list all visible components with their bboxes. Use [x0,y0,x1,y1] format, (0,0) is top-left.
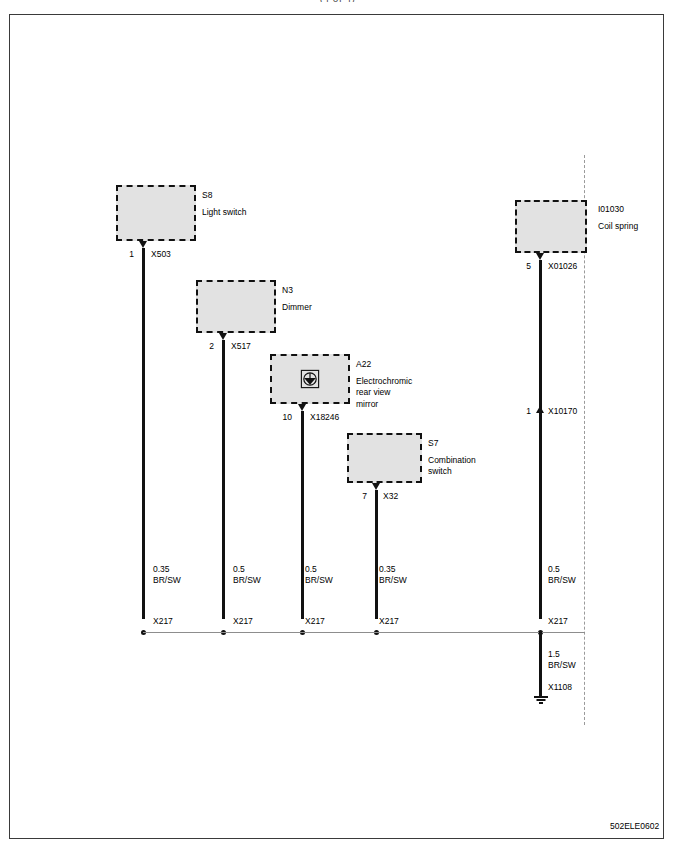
pin-number-x32: 7 [351,491,367,501]
component-code-i01030: I01030 [598,204,638,216]
pin-number-x01026: 5 [515,261,531,271]
wiring-diagram-page: (4 of 4) S8 Light switch 1 X503 0.35 BR/… [0,0,675,852]
component-desc-s8: Light switch [202,207,246,219]
wire-x10170-to-bus [539,413,542,619]
component-desc-a22: Electrochromic rear view mirror [356,376,412,411]
splice-label-x217-1: X217 [153,616,173,626]
connector-arrow-x517 [219,333,227,340]
pin-number-x10170: 1 [515,406,531,416]
ground-point-label-x1108: X1108 [548,682,572,692]
wire-s7-to-bus [375,490,378,619]
connector-arrow-x503 [139,241,147,248]
wire-spec-a22: 0.5 BR/SW [305,564,333,586]
wire-spec-s7: 0.35 BR/SW [379,564,407,586]
wire-color-s8: BR/SW [153,575,181,586]
component-block-s8[interactable] [116,185,196,241]
wire-spec-ground: 1.5 BR/SW [548,649,576,671]
pin-number-x18246: 10 [272,412,292,422]
connector-id-x18246: X18246 [310,412,339,422]
wire-gauge-s8: 0.35 [153,564,181,575]
wire-spec-coilspring: 0.5 BR/SW [548,564,576,586]
wire-gauge-ground: 1.5 [548,649,576,660]
wire-color-coilspring: BR/SW [548,575,576,586]
pin-number-x503: 1 [118,249,134,259]
connector-id-x32: X32 [383,491,398,501]
connector-id-x10170: X10170 [548,406,577,416]
wire-i01030-to-x10170 [539,260,542,412]
diagram-frame: S8 Light switch 1 X503 0.35 BR/SW X217 N… [9,14,664,839]
component-label-i01030: I01030 Coil spring [598,204,638,232]
pin-number-x517: 2 [198,341,214,351]
connector-id-x01026: X01026 [548,261,577,271]
connector-arrow-x18246 [298,404,306,411]
component-desc-s7: Combination switch [428,455,476,478]
splice-label-x217-4: X217 [379,616,399,626]
connector-id-x517: X517 [231,341,251,351]
wire-color-n3: BR/SW [233,575,261,586]
splice-label-x217-2: X217 [233,616,253,626]
component-code-a22: A22 [356,359,412,371]
wire-color-s7: BR/SW [379,575,407,586]
wire-spec-s8: 0.35 BR/SW [153,564,181,586]
component-label-s8: S8 Light switch [202,190,246,218]
connector-arrow-x01026 [536,253,544,260]
wire-bus-to-ground [539,632,542,697]
rear-view-mirror-icon [301,370,320,389]
wire-spec-n3: 0.5 BR/SW [233,564,261,586]
wire-gauge-coilspring: 0.5 [548,564,576,575]
ground-bar-3 [539,702,543,704]
drawing-id-label: 502ELE0602 [610,821,659,831]
component-desc-i01030: Coil spring [598,221,638,233]
component-label-a22: A22 Electrochromic rear view mirror [356,359,412,410]
component-code-s8: S8 [202,190,246,202]
wire-gauge-s7: 0.35 [379,564,407,575]
connector-arrow-x10170 [536,406,544,413]
component-desc-n3: Dimmer [282,302,312,314]
component-block-s7[interactable] [347,433,422,483]
component-label-s7: S7 Combination switch [428,438,476,478]
wire-s8-to-bus [142,248,145,619]
wire-a22-to-bus [301,411,304,619]
connector-arrow-x32 [372,483,380,490]
component-code-n3: N3 [282,285,312,297]
splice-label-x217-3: X217 [305,616,325,626]
component-block-i01030[interactable] [515,200,587,253]
wire-gauge-a22: 0.5 [305,564,333,575]
wire-color-ground: BR/SW [548,660,576,671]
ground-bus-line [143,632,585,633]
top-caption: (4 of 4) [0,0,675,2]
component-block-n3[interactable] [196,280,276,333]
wire-color-a22: BR/SW [305,575,333,586]
wire-n3-to-bus [222,340,225,619]
component-label-n3: N3 Dimmer [282,285,312,313]
splice-label-x217-5: X217 [548,616,568,626]
ground-bar-2 [537,699,546,701]
connector-id-x503: X503 [151,249,171,259]
wire-gauge-n3: 0.5 [233,564,261,575]
component-code-s7: S7 [428,438,476,450]
ground-bar-1 [534,696,548,698]
component-block-a22[interactable] [270,354,350,404]
